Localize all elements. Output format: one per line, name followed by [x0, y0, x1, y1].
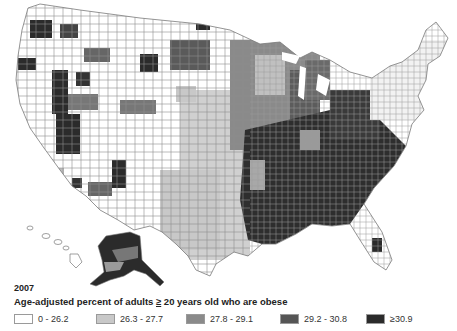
legend-item-4: ≥30.9: [366, 313, 412, 325]
contiguous-us: [0, 0, 457, 300]
legend-title: Age-adjusted percent of adults ≥ 20 year…: [14, 296, 287, 307]
legend-swatch: [186, 314, 205, 324]
map-year: 2007: [14, 283, 34, 293]
legend-label: 26.3 - 27.7: [120, 314, 163, 324]
legend-label: ≥30.9: [390, 314, 412, 324]
legend-item-2: 27.8 - 29.1: [186, 313, 253, 325]
legend-item-0: 0 - 26.2: [14, 313, 69, 325]
legend: 0 - 26.2 26.3 - 27.7 27.8 - 29.1 29.2 - …: [14, 313, 454, 325]
legend-swatch: [366, 314, 385, 324]
alaska: [90, 232, 164, 286]
legend-item-1: 26.3 - 27.7: [96, 313, 163, 325]
legend-swatch: [14, 314, 33, 324]
hawaii: [27, 226, 82, 268]
legend-swatch: [280, 314, 299, 324]
legend-label: 27.8 - 29.1: [210, 314, 253, 324]
us-county-map: [0, 0, 457, 300]
choropleth-map: [0, 0, 457, 300]
legend-label: 0 - 26.2: [38, 314, 69, 324]
legend-label: 29.2 - 30.8: [304, 314, 347, 324]
legend-item-3: 29.2 - 30.8: [280, 313, 347, 325]
legend-swatch: [96, 314, 115, 324]
